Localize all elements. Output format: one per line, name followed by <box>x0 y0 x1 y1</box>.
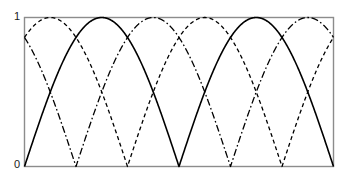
series-line-phi-1 <box>25 18 334 167</box>
plot-figure: 1 0 <box>0 0 349 179</box>
plot-canvas <box>0 0 349 179</box>
series-group <box>25 18 334 167</box>
series-line-phi-3 <box>25 18 334 167</box>
chart-screenshot: 1 0 <box>0 0 349 179</box>
series-line-phi-2 <box>25 18 334 167</box>
plot-frame <box>25 18 334 167</box>
